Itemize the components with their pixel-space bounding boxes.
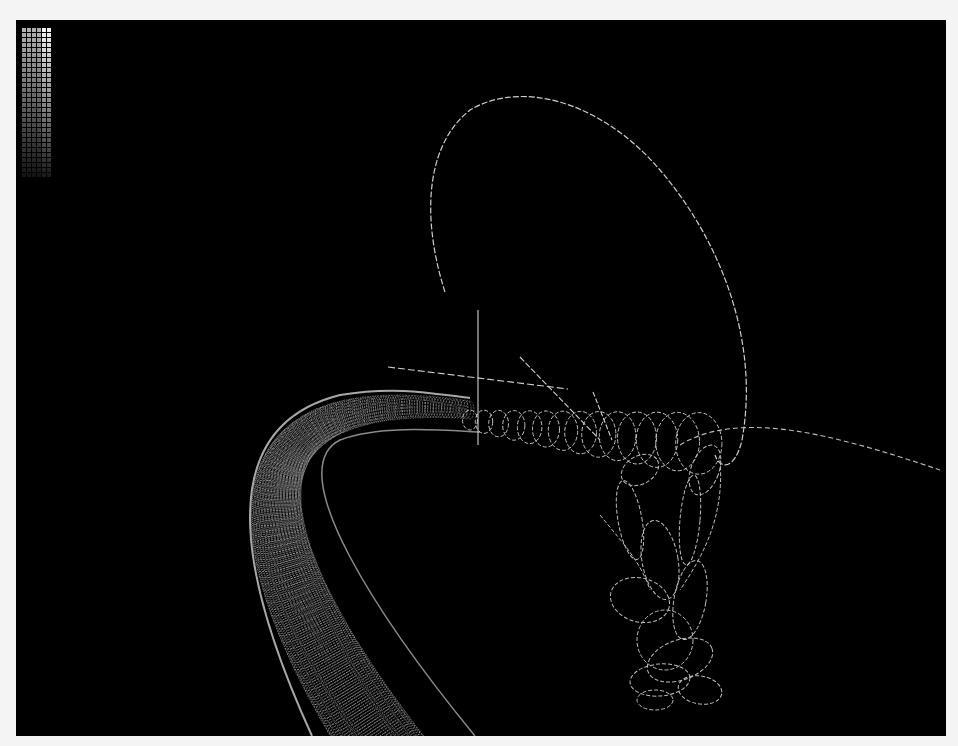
axes: [388, 310, 612, 445]
axis-diagonal: [520, 357, 600, 440]
helical-tube: [250, 391, 480, 736]
scene-render: [16, 20, 946, 736]
trailing-curve: [680, 428, 940, 471]
helix-coils: [463, 410, 722, 474]
3d-viewport[interactable]: [16, 20, 946, 736]
tangled-loops: [600, 441, 727, 710]
